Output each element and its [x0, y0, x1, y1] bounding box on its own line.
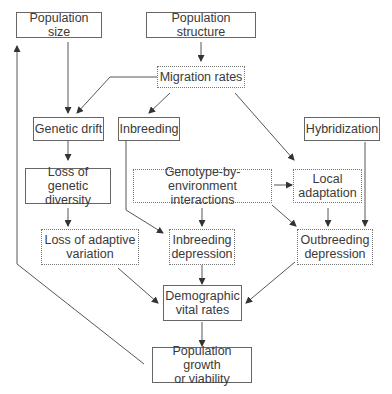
node-local-adaptation: Local adaptation — [293, 169, 362, 203]
node-population-structure: Population structure — [146, 12, 256, 38]
node-inbreeding: Inbreeding — [118, 117, 180, 141]
node-loss-adaptive-variation: Loss of adaptive variation — [41, 229, 139, 265]
node-population-size: Population size — [16, 12, 102, 38]
node-genetic-drift: Genetic drift — [33, 117, 104, 141]
node-loss-genetic-diversity: Loss of genetic diversity — [25, 168, 111, 204]
node-gxe-interactions: Genotype-by-environment interactions — [133, 169, 272, 203]
node-inbreeding-depression: Inbreeding depression — [169, 229, 235, 265]
node-demographic-vital-rates: Demographic vital rates — [163, 285, 242, 321]
node-population-growth: Population growth or viability — [152, 347, 252, 383]
node-outbreeding-depression: Outbreeding depression — [297, 229, 373, 265]
node-hybridization: Hybridization — [304, 117, 380, 141]
node-migration-rates: Migration rates — [157, 66, 245, 88]
